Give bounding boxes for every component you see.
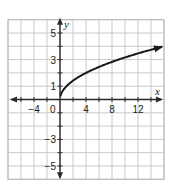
- y-axis-up-arrow-icon: [57, 18, 63, 25]
- x-axis-right-arrow-icon: [156, 97, 163, 103]
- y-tick-label: 1: [50, 81, 56, 92]
- y-tick-label: −5: [45, 161, 57, 172]
- y-tick-label: 5: [50, 28, 56, 39]
- x-tick-label: 4: [83, 104, 89, 115]
- y-tick-label: −3: [45, 134, 57, 145]
- y-axis-label: y: [63, 18, 69, 30]
- curve-arrow-icon: [153, 45, 163, 52]
- origin-label: 0: [50, 104, 56, 115]
- x-tick-label: 12: [132, 104, 144, 115]
- x-tick-label: −4: [28, 104, 40, 115]
- x-tick-label: 8: [109, 104, 115, 115]
- y-tick-label: 3: [50, 55, 56, 66]
- y-axis-down-arrow-icon: [57, 172, 63, 179]
- x-axis-label: x: [154, 85, 160, 97]
- x-axis-left-arrow-icon: [10, 97, 17, 103]
- function-graph: y x 0 −4 4 8 12 5 3 1 −3 −5: [0, 0, 173, 189]
- function-curve: [60, 47, 162, 96]
